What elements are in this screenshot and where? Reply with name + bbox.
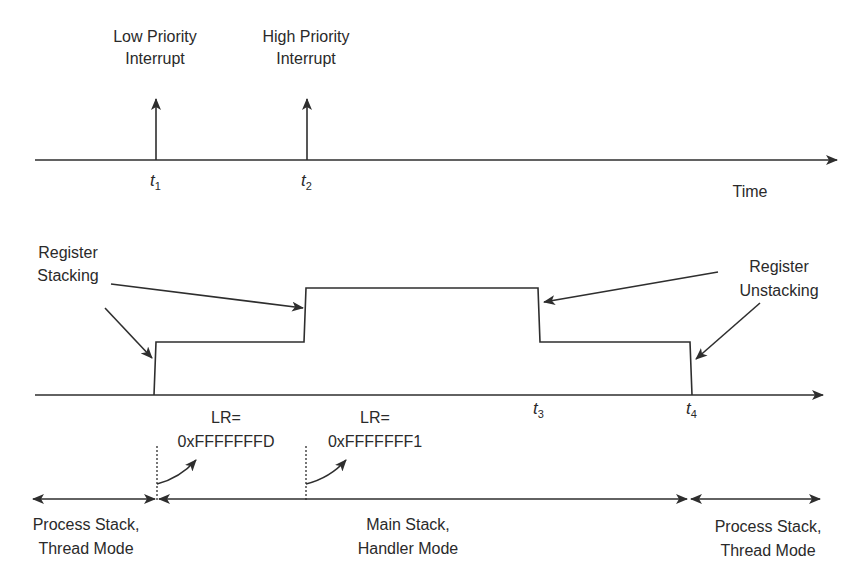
lr-value-2-line1: LR=	[360, 409, 390, 426]
high-priority-label-line2: Interrupt	[276, 50, 336, 67]
mode-1-line2: Thread Mode	[38, 540, 133, 557]
low-priority-label-line1: Low Priority	[113, 28, 197, 45]
lr-value-1-line1: LR=	[211, 409, 241, 426]
tick-t1: t1	[150, 171, 161, 192]
unstacking-arrow-2	[696, 303, 760, 359]
lr-value-2-line2: 0xFFFFFFF1	[328, 433, 422, 450]
lr-value-1-line2: 0xFFFFFFFD	[178, 433, 275, 450]
time-axis-label: Time	[733, 183, 768, 200]
register-stacking-line1: Register	[38, 244, 98, 261]
register-unstacking-line1: Register	[749, 258, 809, 275]
low-priority-label-line2: Interrupt	[125, 50, 185, 67]
unstacking-arrow-1	[544, 272, 718, 302]
mode-1-line1: Process Stack,	[33, 516, 140, 533]
tick-t3: t3	[533, 399, 544, 420]
mode-2-line2: Handler Mode	[358, 540, 459, 557]
lr-marker-1	[157, 446, 196, 500]
mode-3-line2: Thread Mode	[720, 542, 815, 559]
mode-2-line1: Main Stack,	[366, 516, 450, 533]
register-stacking-line2: Stacking	[37, 267, 98, 284]
mode-3-line1: Process Stack,	[715, 518, 822, 535]
stacking-arrow-2	[111, 284, 303, 308]
tick-t2: t2	[301, 171, 312, 192]
stack-usage-trace	[154, 288, 692, 395]
tick-t4: t4	[686, 399, 697, 420]
high-priority-label-line1: High Priority	[262, 28, 349, 45]
stacking-arrow-1	[105, 308, 152, 358]
lr-marker-2	[306, 446, 346, 500]
interrupt-timing-diagram: Time Low Priority Interrupt t1 High Prio…	[0, 0, 858, 584]
register-unstacking-line2: Unstacking	[739, 282, 818, 299]
